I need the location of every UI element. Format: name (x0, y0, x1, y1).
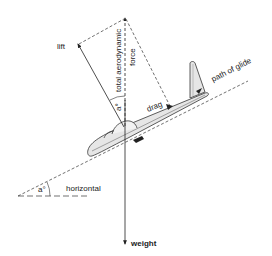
path-of-glide-label: path of glide (210, 56, 253, 84)
lift-label: lift (57, 42, 66, 51)
glide-angle-arc (47, 182, 50, 196)
glider-force-diagram: lift total aerodynamic force a° drag pat… (0, 0, 272, 256)
weight-label: weight (130, 239, 157, 248)
force-angle-arc (110, 96, 125, 100)
glide-angle-label: a° (38, 185, 46, 194)
total-aerodynamic-force-label-2: force (128, 48, 137, 66)
force-angle-label: a° (114, 103, 123, 111)
total-aerodynamic-force-label-1: total aerodynamic (114, 29, 123, 92)
path-of-glide-line (18, 81, 248, 196)
horizontal-label: horizontal (66, 184, 101, 193)
